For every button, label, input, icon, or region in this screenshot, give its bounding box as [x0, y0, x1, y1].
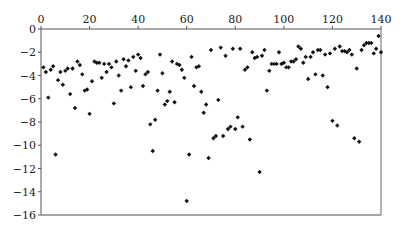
data-point: [274, 62, 278, 66]
y-tick-label: −14: [13, 186, 36, 199]
y-tick-label: −8: [20, 116, 36, 129]
data-point: [155, 88, 159, 92]
data-point: [313, 72, 317, 76]
data-point: [233, 127, 237, 131]
data-point: [265, 88, 269, 92]
data-point: [248, 137, 252, 141]
data-point: [151, 149, 155, 153]
data-point: [41, 65, 45, 69]
data-point: [44, 70, 48, 74]
data-point: [163, 102, 167, 106]
y-tick-label: 0: [29, 23, 36, 36]
data-point: [267, 69, 271, 73]
data-point: [308, 55, 312, 59]
data-point: [325, 85, 329, 89]
data-point: [138, 56, 142, 60]
data-point: [206, 156, 210, 160]
data-point: [119, 88, 123, 92]
data-point: [277, 50, 281, 54]
data-point: [100, 76, 104, 80]
data-point: [136, 52, 140, 56]
data-point: [219, 45, 223, 49]
data-point: [58, 70, 62, 74]
data-point: [192, 84, 196, 88]
data-point: [165, 99, 169, 103]
data-point: [148, 122, 152, 126]
data-point: [350, 52, 354, 56]
data-point: [90, 79, 94, 83]
data-point: [182, 76, 186, 80]
data-point: [124, 64, 128, 68]
data-point: [301, 61, 305, 65]
x-tick-label: 60: [180, 13, 194, 26]
data-point: [306, 77, 310, 81]
data-point: [189, 55, 193, 59]
data-point: [46, 95, 50, 99]
data-point: [153, 117, 157, 121]
data-point: [202, 111, 206, 115]
data-point: [114, 59, 118, 63]
data-point: [330, 119, 334, 123]
data-point: [158, 52, 162, 56]
x-tick-label: 140: [371, 13, 392, 26]
y-tick-label: −12: [13, 163, 36, 176]
data-point: [376, 34, 380, 38]
y-axis: 0−2−4−6−8−10−12−14−16: [13, 23, 41, 222]
data-point: [240, 124, 244, 128]
x-tick-label: 20: [83, 13, 97, 26]
data-point: [121, 57, 125, 61]
data-point: [209, 48, 213, 52]
data-point: [61, 83, 65, 87]
x-tick-label: 40: [131, 13, 145, 26]
x-tick-label: 0: [38, 13, 45, 26]
data-point: [112, 101, 116, 105]
x-axis: 020406080100120140: [38, 13, 392, 29]
data-point: [131, 55, 135, 59]
data-point: [335, 123, 339, 127]
data-point: [359, 48, 363, 52]
data-point: [180, 67, 184, 71]
y-tick-label: −16: [13, 209, 36, 222]
y-tick-label: −10: [13, 139, 36, 152]
data-point: [75, 59, 79, 63]
data-point: [73, 106, 77, 110]
data-point: [78, 63, 82, 67]
data-point: [321, 73, 325, 77]
data-points: [41, 34, 383, 203]
data-point: [80, 72, 84, 76]
x-tick-label: 120: [322, 13, 343, 26]
data-point: [221, 134, 225, 138]
data-point: [328, 51, 332, 55]
data-point: [318, 48, 322, 52]
data-point: [231, 47, 235, 51]
data-point: [97, 61, 101, 65]
data-point: [216, 98, 220, 102]
data-point: [170, 59, 174, 63]
data-point: [68, 92, 72, 96]
data-point: [199, 90, 203, 94]
data-point: [260, 54, 264, 58]
data-point: [369, 41, 373, 45]
data-point: [104, 70, 108, 74]
data-point: [117, 73, 121, 77]
data-point: [355, 66, 359, 70]
data-point: [236, 115, 240, 119]
data-point: [357, 140, 361, 144]
data-point: [160, 71, 164, 75]
data-point: [172, 100, 176, 104]
data-point: [129, 85, 133, 89]
data-point: [134, 69, 138, 73]
y-tick-label: −2: [20, 46, 36, 59]
data-point: [250, 50, 254, 54]
data-point: [185, 199, 189, 203]
data-point: [109, 65, 113, 69]
data-point: [141, 84, 145, 88]
data-point: [372, 51, 376, 55]
data-point: [87, 112, 91, 116]
data-point: [238, 47, 242, 51]
data-point: [374, 47, 378, 51]
scatter-chart: 020406080100120140 0−2−4−6−8−10−12−14−16: [0, 0, 404, 231]
data-point: [70, 66, 74, 70]
x-tick-label: 80: [228, 13, 242, 26]
data-point: [304, 55, 308, 59]
